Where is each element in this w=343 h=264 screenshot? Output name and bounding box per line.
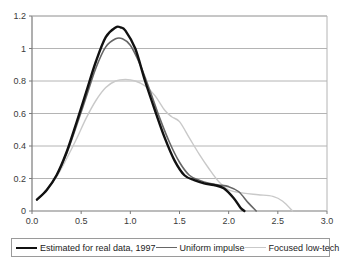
legend-label-0: Estimated for real data, 1997 [40,243,156,253]
y-tick-label: 1.2 [13,11,26,21]
legend-item-0: Estimated for real data, 1997 [16,243,156,253]
x-tick-label: 1.5 [173,216,186,226]
y-tick-label: 0.2 [13,174,26,184]
legend-swatch-icon-0 [16,247,37,249]
y-tick-label: 0.8 [13,76,26,86]
x-tick-label: 0.0 [26,216,39,226]
y-tick-label: 0.4 [13,141,26,151]
legend-swatch-icon-2 [245,247,266,248]
legend-swatch-icon-1 [156,247,177,248]
x-tick-label: 2.0 [222,216,235,226]
legend-item-1: Uniform impulse [156,243,245,253]
x-axis-ticks: 0.00.51.01.52.02.53.0 [26,211,334,226]
y-tick-label: 1 [21,44,26,54]
chart-container: 00.20.40.60.811.2 0.00.51.01.52.02.53.0 … [0,0,343,264]
legend-item-2: Focused low-tech [245,243,340,253]
y-axis-ticks: 00.20.40.60.811.2 [13,11,32,216]
legend-label-1: Uniform impulse [180,243,245,253]
line-chart-plot: 00.20.40.60.811.2 0.00.51.01.52.02.53.0 [0,0,343,264]
legend-label-2: Focused low-tech [269,243,340,253]
y-tick-label: 0.6 [13,109,26,119]
chart-legend: Estimated for real data, 1997 Uniform im… [11,238,330,257]
x-tick-label: 1.0 [124,216,137,226]
x-tick-label: 0.5 [75,216,88,226]
x-tick-label: 2.5 [272,216,285,226]
x-tick-label: 3.0 [321,216,334,226]
y-tick-label: 0 [21,206,26,216]
